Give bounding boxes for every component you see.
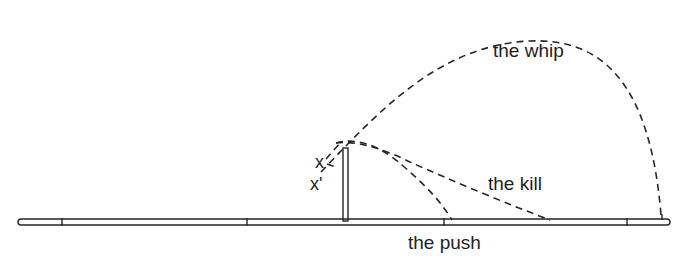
shot-trajectory-diagram: the whip the kill the push x x' [0, 0, 687, 265]
label-the-push: the push [408, 232, 481, 253]
x-lead-line [326, 143, 340, 159]
label-x-prime: x' [310, 174, 322, 194]
push-trajectory [336, 141, 452, 220]
court-bar [18, 219, 670, 225]
label-the-kill: the kill [488, 173, 542, 194]
label-x: x [315, 152, 324, 172]
court-floor [18, 214, 670, 226]
label-the-whip: the whip [493, 40, 564, 61]
net-post [343, 148, 348, 221]
x-lead-line-2 [327, 164, 336, 167]
